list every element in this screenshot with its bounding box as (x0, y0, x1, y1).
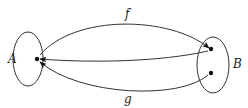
set-a-element (35, 57, 39, 61)
set-b-element-top (209, 47, 213, 51)
set-b: B (197, 37, 242, 93)
set-b-label: B (232, 57, 242, 71)
set-b-ellipse (197, 37, 229, 93)
function-diagram: A B f g (0, 0, 248, 108)
mapping-g-arrow-top (40, 51, 208, 61)
set-b-element-bottom (209, 71, 213, 75)
set-a-label: A (7, 52, 17, 66)
set-a: A (7, 32, 43, 86)
mapping-g-arrow-bottom (40, 62, 208, 91)
mapping-f-arrow (40, 24, 209, 55)
mapping-f-label: f (124, 7, 132, 21)
mapping-g-label: g (124, 92, 132, 106)
